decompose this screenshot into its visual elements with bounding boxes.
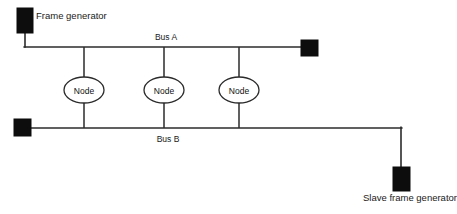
bus-a-label: Bus A bbox=[155, 32, 178, 42]
frame-generator-block bbox=[17, 8, 33, 33]
node-2-label: Node bbox=[154, 86, 175, 96]
slave-frame-generator-label: Slave frame generator bbox=[363, 192, 457, 203]
bus-a-right-terminator bbox=[301, 40, 318, 56]
bus-topology-diagram: Node Node Node Frame generator Bus A Bus… bbox=[0, 0, 457, 214]
diagram-canvas: Node Node Node Frame generator Bus A Bus… bbox=[0, 0, 457, 214]
node-1-label: Node bbox=[74, 86, 95, 96]
node-3-label: Node bbox=[229, 86, 250, 96]
slave-frame-generator-block bbox=[393, 167, 410, 191]
bus-b-label: Bus B bbox=[157, 134, 180, 144]
bus-b-left-terminator bbox=[14, 119, 31, 136]
frame-generator-label: Frame generator bbox=[36, 10, 107, 21]
